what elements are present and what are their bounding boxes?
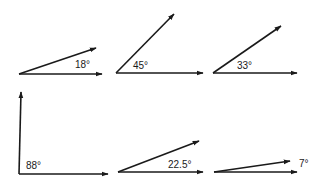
angle-18: 18° [19,48,102,74]
angle-45: 45° [116,14,203,73]
angle-label: 18° [75,59,90,70]
angle-88: 88° [19,92,108,174]
angle-diagram: 18°45°33°88°22.5°7° [0,0,319,186]
angle-22-5: 22.5° [118,141,203,172]
angle-label: 88° [26,160,41,171]
angle-label: 45° [133,60,148,71]
angled-ray-arrow-icon [214,161,290,172]
angle-label: 7° [299,158,309,169]
angles-group: 18°45°33°88°22.5°7° [19,14,309,174]
angle-label: 33° [237,60,252,71]
angle-label: 22.5° [168,159,191,170]
angled-ray-arrow-icon [19,92,21,174]
angle-33: 33° [213,26,297,73]
angle-7: 7° [214,158,309,172]
